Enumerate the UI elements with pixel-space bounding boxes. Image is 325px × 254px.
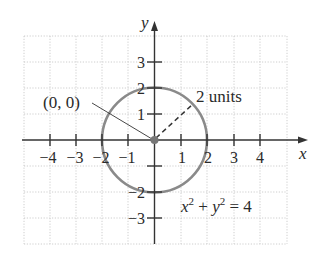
- circle-graph: −4 −3 −2 −1 1 2 3 4 3 2 1 −2 −3 x y (0, …: [0, 0, 325, 254]
- center-label: (0, 0): [43, 93, 80, 112]
- x-tick-label: 1: [178, 149, 186, 166]
- x-tick-label: 3: [230, 149, 238, 166]
- x-tick-label: −1: [118, 149, 135, 166]
- y-axis-arrow-icon: [151, 21, 158, 31]
- x-axis-arrow-icon: [298, 137, 308, 144]
- equation-label: x2 + y2 = 4: [180, 195, 252, 216]
- center-point: [151, 136, 159, 144]
- x-tick-label: −4: [39, 149, 56, 166]
- radius-label: 2 units: [196, 87, 242, 106]
- x-tick-label: −3: [66, 149, 83, 166]
- y-tick-label: 1: [137, 106, 145, 123]
- x-tick-labels: −4 −3 −2 −1 1 2 3 4: [39, 149, 264, 166]
- y-axis-label: y: [139, 13, 149, 32]
- x-tick-label: 2: [204, 149, 212, 166]
- eq-y: y: [210, 197, 220, 216]
- y-tick-label: 3: [137, 54, 145, 71]
- x-tick-label: −2: [92, 149, 109, 166]
- x-axis-label: x: [298, 144, 307, 163]
- y-tick-label: 2: [137, 80, 145, 97]
- x-tick-label: 4: [256, 149, 264, 166]
- radius-dashed-line: [156, 104, 193, 138]
- y-tick-label: −3: [128, 210, 145, 227]
- y-tick-label: −2: [128, 184, 145, 201]
- eq-plus: +: [194, 197, 212, 216]
- eq-rest: = 4: [225, 197, 252, 216]
